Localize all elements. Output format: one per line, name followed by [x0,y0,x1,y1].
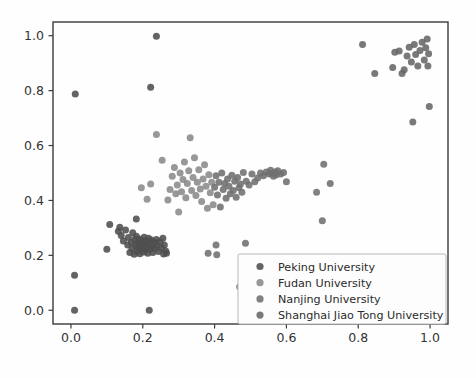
scatter-plot: 0.00.20.40.60.81.0 0.00.20.40.60.81.0 Pe… [0,0,476,378]
data-point [198,198,205,205]
data-point [202,183,209,190]
data-point [280,169,287,176]
data-point [71,307,78,314]
data-point [182,194,189,201]
x-tick-label: 0.0 [61,330,81,345]
data-point [72,90,79,97]
data-point [164,196,171,203]
legend-marker [256,312,263,319]
data-point [174,182,181,189]
data-point [144,196,151,203]
data-point [195,166,202,173]
data-point [207,189,214,196]
data-point [205,171,212,178]
x-tick-label: 1.0 [420,330,440,345]
data-point [106,221,113,228]
data-point [153,33,160,40]
x-tick-label: 0.6 [276,330,296,345]
data-point [116,224,123,231]
data-point [404,53,411,60]
x-axis-ticks: 0.00.20.40.60.81.0 [61,324,440,345]
data-point [213,241,220,248]
y-tick-label: 0.8 [24,83,44,98]
data-point [421,56,428,63]
data-point [240,169,247,176]
legend-label-1: Fudan University [278,277,372,290]
legend-marker [256,295,263,302]
data-point [414,62,421,69]
data-point [185,167,192,174]
data-point [178,188,185,195]
legend-label-2: Nanjing University [278,293,381,306]
data-point [167,186,174,193]
data-point [159,235,166,242]
data-point [161,241,168,248]
data-point [409,118,416,125]
y-tick-label: 0.4 [24,193,44,208]
data-point [210,201,217,208]
data-point [248,171,255,178]
data-point [359,41,366,48]
data-point [171,164,178,171]
data-point [408,59,415,66]
data-point [389,64,396,71]
data-point [200,176,207,183]
data-point [146,307,153,314]
y-tick-label: 1.0 [24,28,44,43]
data-point [147,180,154,187]
data-point [181,159,188,166]
y-tick-label: 0.0 [24,303,44,318]
data-point [424,62,431,69]
data-point [426,103,433,110]
data-point [233,194,240,201]
data-point [138,184,145,191]
data-point [396,48,403,55]
data-point [191,154,198,161]
data-point [283,178,290,185]
x-tick-label: 0.8 [348,330,368,345]
data-point [218,170,225,177]
data-point [201,161,208,168]
data-point [401,66,408,73]
data-point [187,134,194,141]
data-point [147,84,154,91]
data-point [192,192,199,199]
y-axis-ticks: 0.00.20.40.60.81.0 [24,28,53,318]
data-point [234,174,241,181]
data-point [177,170,184,177]
data-point [213,251,220,258]
data-point [71,272,78,279]
data-point [371,70,378,77]
data-point [425,50,432,57]
data-point [424,36,431,43]
data-point [422,44,429,51]
data-point [160,250,167,257]
chart-figure: 0.00.20.40.60.81.0 0.00.20.40.60.81.0 Pe… [0,0,476,378]
data-point [184,180,191,187]
data-point [319,217,326,224]
data-point [327,180,334,187]
data-point [159,157,166,164]
data-point [242,240,249,247]
data-point [320,161,327,168]
chart-legend[interactable]: Peking UniversityFudan UniversityNanjing… [238,254,446,324]
data-point [411,41,418,48]
data-point [175,208,182,215]
x-tick-label: 0.4 [205,330,225,345]
legend-marker [256,263,263,270]
data-point [313,189,320,196]
data-point [238,189,245,196]
x-tick-label: 0.2 [133,330,153,345]
legend-label-0: Peking University [278,261,375,274]
y-tick-label: 0.6 [24,138,44,153]
data-point [169,173,176,180]
data-point [205,250,212,257]
data-point [103,246,110,253]
y-tick-label: 0.2 [24,248,44,263]
data-point [133,216,140,223]
data-point [153,131,160,138]
data-point [214,191,221,198]
legend-marker [256,279,263,286]
data-point [217,204,224,211]
legend-label-3: Shanghai Jiao Tong University [278,309,444,322]
